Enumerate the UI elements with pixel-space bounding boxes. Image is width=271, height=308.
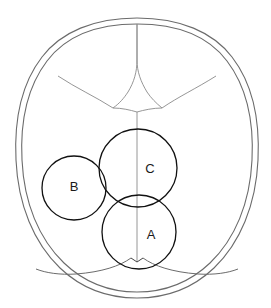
diagram-canvas: B C A bbox=[0, 0, 271, 308]
circle-label-a: A bbox=[147, 227, 156, 242]
circle-label-b: B bbox=[70, 179, 79, 194]
circle-label-c: C bbox=[145, 161, 154, 176]
fetal-skull-diagram: B C A bbox=[0, 0, 271, 308]
